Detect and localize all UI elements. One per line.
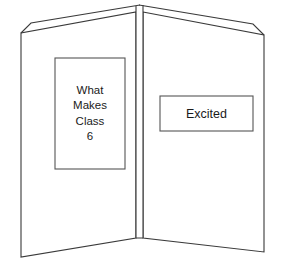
center-spine-face: [136, 6, 143, 238]
right-panel-face: [143, 12, 264, 252]
presentation-board-figure: What Makes Class 6 Excited: [0, 0, 282, 276]
left-label-card-box[interactable]: [55, 58, 125, 169]
board-line-art: [0, 0, 282, 276]
right-label-card-box[interactable]: [160, 96, 253, 131]
